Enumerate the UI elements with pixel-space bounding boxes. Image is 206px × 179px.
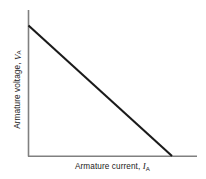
- plot-area: [0, 0, 206, 179]
- y-axis-label-subscript: A: [16, 50, 22, 54]
- x-axis-label: Armature current, IA: [28, 162, 197, 171]
- y-axis-label-text: Armature voltage,: [14, 62, 22, 128]
- x-axis-label-text: Armature current,: [75, 162, 140, 171]
- data-line-terminal-characteristic: [29, 26, 173, 157]
- y-axis-label: Armature voltage, VA: [10, 0, 26, 179]
- y-axis-label-symbol: V: [14, 54, 23, 60]
- figure-container: Armature current, IA Armature voltage, V…: [0, 0, 206, 179]
- x-axis-label-subscript: A: [146, 165, 150, 172]
